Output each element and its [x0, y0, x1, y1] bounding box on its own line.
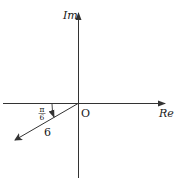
angle-arc [52, 104, 54, 117]
origin-label: O [81, 107, 90, 120]
real-axis-label: Re [158, 107, 174, 120]
magnitude-label: 6 [44, 126, 51, 139]
complex-plane-diagram: Im Re O 6 π 6 [0, 0, 179, 183]
angle-label: π 6 [39, 105, 46, 122]
angle-denominator: 6 [40, 113, 45, 122]
imag-axis-label: Im [62, 9, 78, 22]
